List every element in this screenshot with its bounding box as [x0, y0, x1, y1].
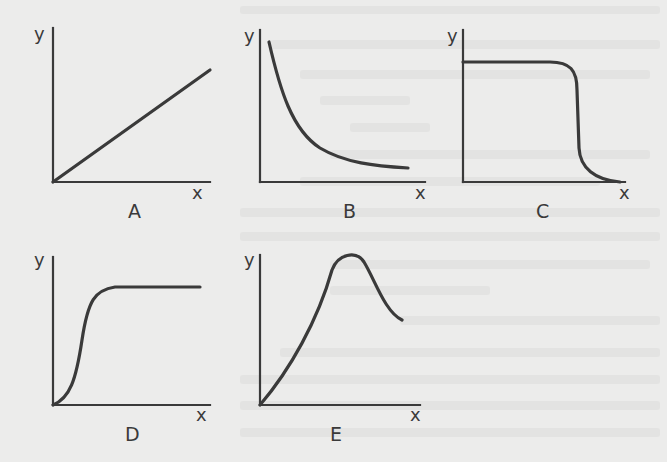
curve-sigmoid: [53, 287, 200, 405]
x-axis-label: x: [619, 182, 630, 203]
panel-b: y x B: [244, 25, 426, 222]
y-axis-label: y: [447, 25, 458, 46]
graph-figure: y x A y x B y x C y x D: [0, 0, 667, 462]
curve-plateau-drop: [463, 62, 620, 182]
y-axis-label: y: [244, 25, 255, 46]
panel-label: B: [343, 200, 356, 222]
curve-decay: [269, 42, 408, 168]
panel-e: y x E: [244, 249, 421, 445]
x-axis-label: x: [410, 404, 421, 425]
panel-d: y x D: [34, 249, 210, 445]
x-axis-label: x: [196, 404, 207, 425]
y-axis-label: y: [34, 23, 45, 44]
x-axis-label: x: [415, 182, 426, 203]
panel-label: E: [330, 423, 342, 445]
page-background: y x A y x B y x C y x D: [0, 0, 667, 462]
curve-peak: [260, 255, 402, 405]
y-axis-label: y: [34, 249, 45, 270]
y-axis-label: y: [244, 249, 255, 270]
panel-c: y x C: [447, 25, 630, 222]
panel-label: D: [125, 423, 140, 445]
panel-label: C: [536, 200, 549, 222]
panel-label: A: [128, 200, 141, 222]
x-axis-label: x: [192, 182, 203, 203]
panel-a: y x A: [34, 23, 210, 222]
curve-linear: [53, 70, 210, 182]
